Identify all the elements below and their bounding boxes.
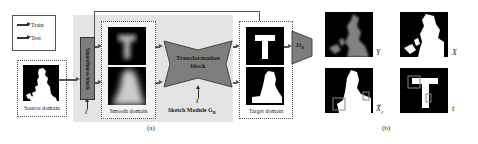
label-X-tilde-ell: X̃ℓ <box>376 104 383 115</box>
transformation-block: Transformation block <box>162 40 234 88</box>
discriminator-label: DB <box>296 41 304 50</box>
smooth-domain-box: Smooth domain <box>101 21 156 119</box>
sketch-module-label: Sketch Module GB <box>168 107 216 115</box>
smooth-domain-label: Smooth domain <box>102 108 155 114</box>
transformation-block-label: Transformation block <box>162 54 234 70</box>
target-domain-box: Target domain <box>239 21 293 119</box>
arrow-source-to-smooth <box>59 79 77 81</box>
source-image <box>23 65 59 101</box>
legend-box: Train Test <box>12 15 56 51</box>
source-domain-label: Source domain <box>18 105 66 111</box>
arrow-smooth-bottom <box>95 82 99 84</box>
arrow-icon <box>17 24 29 26</box>
target-text-image <box>246 27 284 65</box>
image-X-tilde-ell <box>325 68 373 113</box>
source-domain-box: Source domain <box>17 60 67 117</box>
legend-train: Train <box>17 22 44 28</box>
image-Y <box>325 12 373 57</box>
label-t: t <box>452 104 454 113</box>
arrow-to-discriminator <box>284 46 289 48</box>
arrow-to-target-top <box>233 46 237 48</box>
label-Y: Y <box>376 48 380 57</box>
label-X: X <box>452 48 457 57</box>
caption-b: (b) <box>382 124 390 132</box>
ell-symbol: ℓ <box>196 97 199 105</box>
legend-test: Test <box>17 35 41 41</box>
arrow-to-transform-top <box>155 46 160 48</box>
arrow-smooth-top <box>95 46 99 48</box>
caption-a: (a) <box>147 124 155 132</box>
smooth-shape-image <box>108 67 146 105</box>
target-domain-label: Target domain <box>240 108 292 114</box>
ell-symbol: ℓ <box>85 108 88 116</box>
smoothness-block: Smoothness block <box>80 37 95 100</box>
arrow-to-transform-bottom <box>155 82 160 84</box>
image-t <box>400 68 448 113</box>
arrow-icon <box>17 37 29 39</box>
image-X <box>400 12 448 57</box>
target-shape-image <box>246 67 284 105</box>
discriminator-block: DB <box>291 30 313 65</box>
arrow-to-target-bottom <box>233 82 237 84</box>
smooth-text-image <box>108 27 146 65</box>
